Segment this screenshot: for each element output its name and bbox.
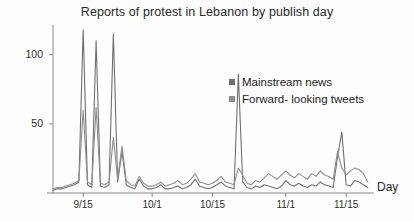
legend-swatch-icon (229, 79, 235, 85)
series-line (53, 30, 368, 190)
x-tick-label: 9/15 (63, 199, 103, 210)
plot-area (0, 0, 414, 222)
series-line (53, 107, 368, 189)
x-tick-label: 10/15 (193, 199, 233, 210)
x-tick-label: 10/1 (132, 199, 172, 210)
y-tick-label: 100 (9, 48, 43, 60)
x-axis-title: Day (377, 180, 398, 194)
legend-item[interactable]: Forward- looking tweets (229, 91, 364, 107)
y-tick-marks (49, 55, 53, 124)
y-tick-label: 50 (9, 117, 43, 129)
data-series-group (53, 30, 368, 190)
legend-item[interactable]: Mainstream news (229, 74, 364, 90)
legend-swatch-icon (229, 96, 235, 102)
x-tick-marks (83, 193, 346, 197)
x-tick-label: 11/15 (326, 199, 366, 210)
chart-legend: Mainstream newsForward- looking tweets (229, 74, 364, 108)
legend-label: Mainstream news (242, 76, 332, 88)
legend-label: Forward- looking tweets (242, 93, 364, 105)
chart-container: Reports of protest in Lebanon by publish… (0, 0, 414, 222)
x-tick-label: 11/1 (266, 199, 306, 210)
